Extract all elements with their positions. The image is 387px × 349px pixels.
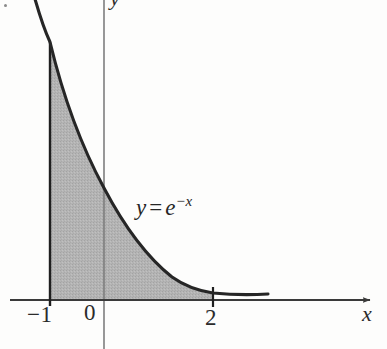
plot-svg	[0, 0, 387, 349]
equation-base: e	[165, 195, 175, 220]
equation-exponent: −x	[175, 193, 192, 209]
figure-canvas: −1 0 2 x y y=e−x	[0, 0, 387, 349]
equation-lhs: y	[136, 195, 146, 220]
tick-label-x-two: 2	[205, 306, 217, 329]
tick-label-x-neg1: −1	[27, 303, 52, 326]
equation-equals: =	[146, 195, 165, 220]
tick-label-x-zero: 0	[84, 301, 96, 324]
axis-label-x: x	[362, 303, 372, 325]
curve-equation-label: y=e−x	[136, 194, 192, 219]
shaded-region	[50, 42, 213, 300]
axis-label-y: y	[110, 0, 120, 9]
